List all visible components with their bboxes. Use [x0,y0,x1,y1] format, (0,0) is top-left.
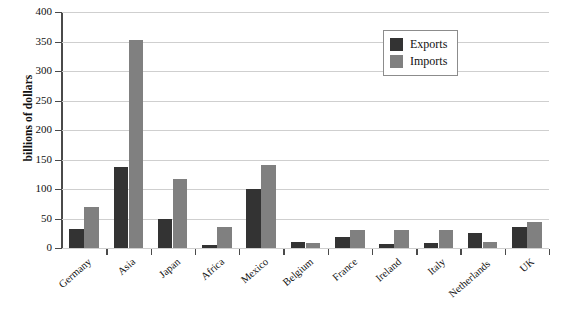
bar-group [512,12,542,248]
bar-group [114,12,144,248]
legend-item-exports: Exports [390,36,447,53]
y-tick-label: 0 [8,242,52,253]
bar-netherlands-exports [468,233,483,248]
bar-uk-exports [512,227,527,248]
bar-italy-exports [424,243,439,248]
y-axis-ticks: 050100150200250300350400 [0,0,52,325]
bar-group [335,12,365,248]
y-tick-label: 300 [8,65,52,76]
bar-group [468,12,498,248]
bar-chart: billions of dollars 05010015020025030035… [0,0,566,325]
bar-germany-imports [84,207,99,248]
x-tick-mark [195,249,196,255]
x-tick-mark [283,249,284,255]
x-tick-mark [372,249,373,255]
bar-japan-exports [158,219,173,249]
x-tick-mark [460,249,461,255]
bar-ireland-exports [379,244,394,248]
bar-uk-imports [527,222,542,248]
bar-group [158,12,188,248]
chart-legend: ExportsImports [383,30,458,76]
plot-area [62,12,549,248]
bar-asia-exports [114,167,129,248]
y-tick-label: 350 [8,36,52,47]
legend-swatch-imports [390,55,403,68]
x-tick-mark [106,249,107,255]
bar-japan-imports [173,179,188,248]
bar-group [246,12,276,248]
gridline [62,248,549,249]
bar-france-exports [335,237,350,248]
legend-swatch-exports [390,38,403,51]
y-tick-label: 50 [8,213,52,224]
bar-mexico-imports [261,165,276,248]
y-tick-label: 200 [8,124,52,135]
legend-label-imports: Imports [410,55,447,68]
x-tick-mark [505,249,506,255]
y-tick-label: 150 [8,154,52,165]
bar-netherlands-imports [483,242,498,248]
legend-item-imports: Imports [390,53,447,70]
bar-belgium-imports [306,243,321,248]
bar-germany-exports [69,229,84,248]
bar-mexico-exports [246,189,261,248]
bar-africa-imports [217,227,232,248]
legend-label-exports: Exports [410,38,447,51]
y-tick-label: 250 [8,95,52,106]
bar-africa-exports [202,245,217,248]
bar-group [202,12,232,248]
x-tick-mark [416,249,417,255]
x-tick-mark [151,249,152,255]
bar-asia-imports [129,40,144,248]
x-tick-mark [549,249,550,255]
bar-group [291,12,321,248]
y-tick-label: 400 [8,6,52,17]
bar-group [69,12,99,248]
x-tick-mark [239,249,240,255]
bar-belgium-exports [291,242,306,248]
bar-italy-imports [439,230,454,248]
x-tick-mark [328,249,329,255]
bar-ireland-imports [394,230,409,248]
y-tick-label: 100 [8,183,52,194]
bar-france-imports [350,230,365,248]
